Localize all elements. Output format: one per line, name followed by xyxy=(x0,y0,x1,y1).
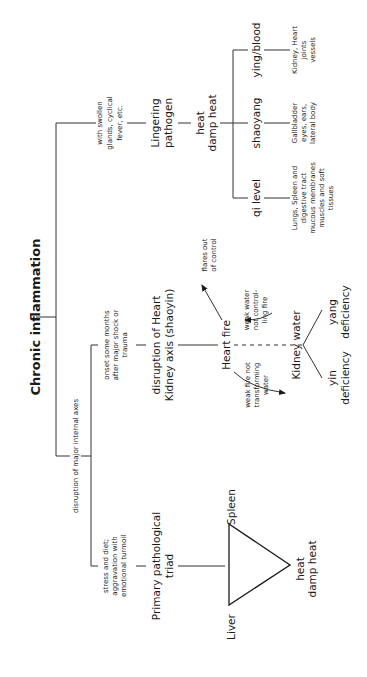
diagram-canvas: Chronic inflammation with swollen glands… xyxy=(0,0,367,677)
yin-fork-line xyxy=(303,345,322,378)
triad-triangle xyxy=(229,524,290,605)
node-heat-1: heat xyxy=(194,111,206,135)
weak-fire-1: weak fire not xyxy=(244,362,252,408)
flares-2: of control xyxy=(210,238,218,271)
yang-fork-line xyxy=(303,310,322,345)
triangle-liver: Liver xyxy=(225,613,237,639)
node-hk-axis-1: disruption of Heart xyxy=(150,296,162,395)
node-kidney-water: Kidney water xyxy=(290,310,302,380)
node-qi-level: qi level xyxy=(250,179,262,217)
node-ying-blood: ying/blood xyxy=(250,22,262,77)
triangle-heat-2: damp heat xyxy=(306,541,318,598)
flares-arrow xyxy=(202,285,222,320)
ying-detail-2: joints xyxy=(300,40,308,60)
node-heat-2: damp heat xyxy=(206,95,218,152)
connector-lines xyxy=(36,50,322,605)
triad-cause-3: emotional turmoil xyxy=(120,535,128,597)
node-shaoyang: shaoyang xyxy=(250,98,262,149)
weak-water-1: weak water xyxy=(243,290,251,331)
shaoyang-detail-3: lateral body xyxy=(309,102,317,144)
shaoyang-detail-1: Gallbladder xyxy=(291,103,299,143)
shaoyang-detail-2: eyes, ears, xyxy=(300,104,308,142)
node-hk-axis-2: Kidney axis (shaoyin) xyxy=(163,289,175,401)
ying-detail-1: Kidney, Heart xyxy=(291,26,299,74)
pathogen-cause-3: fever, etc. xyxy=(116,105,124,141)
node-yin-def-2: deficiency xyxy=(339,351,351,405)
node-lingering-2: pathogen xyxy=(162,98,174,148)
node-yin-def-1: yin xyxy=(326,370,338,386)
hk-cause-2: after major shock or xyxy=(112,309,120,380)
qi-detail-1: Lungs, Spleen and xyxy=(291,166,299,230)
pathogen-cause-2: glands, cyclical xyxy=(106,96,114,150)
node-heart-fire: Heart fire xyxy=(220,320,232,370)
weak-water-2: not control- xyxy=(252,289,260,330)
flares-1: flares out xyxy=(201,238,209,271)
node-yang-def-1: yang xyxy=(326,299,338,325)
weak-fire-2: transforming xyxy=(253,362,261,407)
weak-water-3: ling fire xyxy=(261,297,269,323)
weak-fire-3: water xyxy=(262,375,270,395)
pathogen-cause-1: with swollen xyxy=(96,101,104,144)
triad-cause-2: aggravation with xyxy=(111,536,119,595)
node-triad-1: Primary pathological xyxy=(150,512,162,620)
ying-detail-3: vessels xyxy=(309,37,317,63)
qi-detail-5: tissues xyxy=(327,185,335,210)
node-triad-2: triad xyxy=(163,554,175,578)
qi-detail-4: muscles and soft xyxy=(318,168,326,228)
qi-detail-2: digestive tract xyxy=(300,172,308,223)
diagram-title: Chronic inflammation xyxy=(28,239,43,396)
labels: Chronic inflammation with swollen glands… xyxy=(28,22,351,639)
triad-cause-1: stress and diet; xyxy=(102,539,110,593)
hk-cause-1: onset some months xyxy=(103,310,111,380)
hk-cause-3: trauma xyxy=(121,332,129,357)
axes-label: disruption of major internal axes xyxy=(72,399,80,513)
node-lingering-1: Lingering xyxy=(149,98,161,147)
triangle-heat-1: heat xyxy=(294,557,306,581)
node-yang-def-2: deficiency xyxy=(339,285,351,339)
qi-detail-3: mucous membranes xyxy=(309,162,317,234)
triangle-spleen: Spleen xyxy=(225,489,237,525)
